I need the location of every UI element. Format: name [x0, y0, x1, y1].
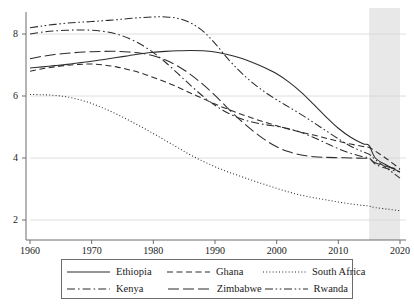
series-line-zimbabwe	[30, 51, 400, 169]
series-line-kenya	[30, 30, 400, 172]
legend-item-ghana[interactable]: Ghana	[166, 266, 262, 277]
projection-band-layer	[369, 8, 400, 240]
legend-key-longdash-icon	[167, 284, 212, 294]
x-tick-label-1970: 1970	[72, 246, 112, 256]
legend-key-dashdotdot-icon	[264, 284, 309, 294]
legend-item-south-africa[interactable]: South Africa	[262, 266, 348, 277]
series-line-south-africa	[30, 94, 400, 210]
legend-item-zimbabwe[interactable]: Zimbabwe	[167, 283, 264, 294]
x-tick-label-1960: 1960	[10, 246, 50, 256]
legend-key-dashdot-icon	[66, 284, 111, 294]
chart-root: 2468 1960197019801990200020102020 Ethiop…	[0, 0, 414, 304]
data-series-layer	[30, 17, 400, 211]
legend-key-dotted-icon	[262, 267, 307, 277]
legend-label: Rwanda	[314, 283, 348, 294]
chart-legend: EthiopiaGhanaSouth AfricaKenyaZimbabweRw…	[61, 259, 353, 299]
series-line-rwanda	[30, 17, 400, 178]
y-tick-label-4: 4	[0, 153, 18, 163]
legend-label: Ethiopia	[116, 266, 152, 277]
legend-key-dashed-icon	[166, 267, 211, 277]
legend-key-solid-icon	[66, 267, 111, 277]
legend-row: KenyaZimbabweRwanda	[66, 280, 348, 297]
x-tick-label-2010: 2010	[318, 246, 358, 256]
legend-label: Zimbabwe	[217, 283, 262, 294]
series-line-ethiopia	[30, 50, 400, 172]
legend-label: Ghana	[216, 266, 243, 277]
legend-item-kenya[interactable]: Kenya	[66, 283, 167, 294]
projection-band	[369, 8, 400, 240]
x-tick-label-1980: 1980	[133, 246, 173, 256]
y-tick-label-6: 6	[0, 91, 18, 101]
x-tick-label-2020: 2020	[380, 246, 414, 256]
series-line-ghana	[30, 64, 400, 169]
y-tick-label-8: 8	[0, 29, 18, 39]
legend-label: Kenya	[116, 283, 143, 294]
axis-ticks-layer	[22, 34, 400, 244]
x-tick-label-1990: 1990	[195, 246, 235, 256]
legend-item-rwanda[interactable]: Rwanda	[264, 283, 348, 294]
axis-lines-layer	[26, 12, 406, 240]
x-tick-label-2000: 2000	[257, 246, 297, 256]
line-chart-svg	[0, 0, 414, 250]
y-tick-label-2: 2	[0, 215, 18, 225]
legend-item-ethiopia[interactable]: Ethiopia	[66, 266, 166, 277]
legend-row: EthiopiaGhanaSouth Africa	[66, 263, 348, 280]
plot-area: 2468 1960197019801990200020102020	[0, 0, 414, 250]
legend-label: South Africa	[312, 266, 365, 277]
